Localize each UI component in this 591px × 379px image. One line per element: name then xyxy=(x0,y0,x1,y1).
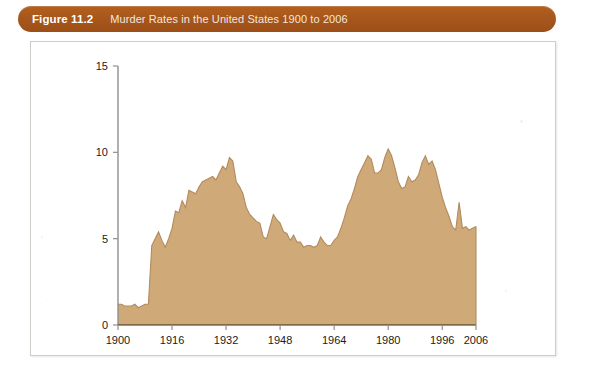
figure-title-text: Murder Rates in the United States 1900 t… xyxy=(110,13,348,25)
scan-speckle xyxy=(60,70,61,71)
scan-speckle xyxy=(41,236,43,238)
scan-speckle xyxy=(505,290,507,292)
figure-caption-bar: Figure 11.2 Murder Rates in the United S… xyxy=(18,6,556,32)
scan-speckle xyxy=(520,120,523,123)
figure-card xyxy=(30,41,556,356)
scan-speckle xyxy=(47,300,48,301)
figure-number-label: Figure 11.2 xyxy=(32,13,93,25)
